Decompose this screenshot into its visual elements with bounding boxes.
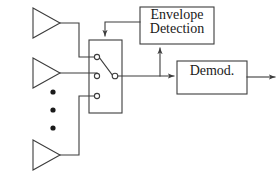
ellipsis-dot-1-icon [50, 89, 55, 94]
block-diagram [0, 0, 280, 176]
switch-contact-middle-icon[interactable] [94, 73, 99, 78]
envelope-detection-box[interactable] [140, 7, 214, 44]
switch-contact-top-icon[interactable] [94, 54, 99, 59]
switch-contact-bottom-icon[interactable] [94, 93, 99, 98]
antenna-middle-icon [33, 58, 60, 88]
antenna-bottom-icon [33, 140, 60, 170]
switch-control-line [105, 22, 140, 36]
switch-common-pole-icon[interactable] [112, 73, 118, 79]
switch-blade[interactable] [99, 57, 113, 76]
antenna-top-icon [33, 8, 60, 38]
ellipsis-dot-3-icon [50, 125, 55, 130]
diagram-canvas: EnvelopeDetection Demod. [0, 0, 280, 176]
demod-box[interactable] [177, 61, 247, 94]
ellipsis-dot-2-icon [50, 107, 55, 112]
antenna-bottom-feed-line [60, 96, 97, 155]
